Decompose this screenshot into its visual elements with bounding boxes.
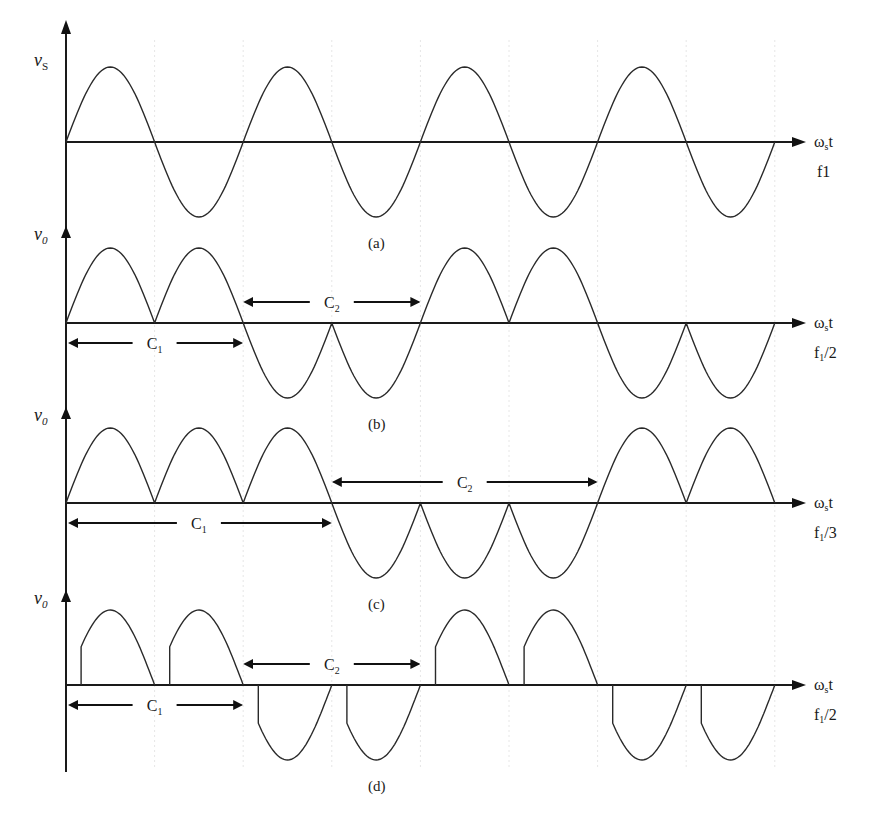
y-axis-label: vS [34, 50, 48, 72]
frequency-label: f1 [817, 163, 830, 180]
y-axis-arrow-icon [61, 20, 71, 34]
x-axis-arrow-icon [792, 680, 806, 690]
panel-caption: (b) [368, 416, 386, 433]
waveform-figure: vSωstf1(a)v0ωstf1/2(b)C1C2v0ωstf1/3(c)C1… [0, 0, 872, 819]
panel-caption: (d) [368, 778, 386, 795]
panel-caption: (c) [368, 596, 385, 613]
vertical-guide-lines [155, 40, 775, 770]
y-axis-arrow-icon [61, 407, 71, 419]
c2-label: C2 [324, 656, 340, 676]
frequency-label: f1/2 [814, 344, 837, 363]
x-axis-arrow-icon [792, 137, 806, 147]
y-axis-arrow-icon [61, 226, 71, 238]
y-axis-arrow-icon [61, 590, 71, 602]
y-axis-label: v0 [34, 588, 48, 610]
x-axis-label: ωst [814, 676, 833, 695]
x-axis-arrow-icon [792, 498, 806, 508]
x-axis-arrow-icon [792, 318, 806, 328]
panel-caption: (a) [368, 235, 385, 252]
c1-label: C1 [191, 515, 207, 535]
y-axis-label: v0 [34, 224, 48, 246]
c1-label: C1 [147, 697, 163, 717]
panel-a: vSωstf1(a) [34, 50, 833, 252]
x-axis-label: ωst [814, 133, 833, 152]
frequency-label: f1/3 [814, 524, 837, 543]
c2-label: C2 [457, 474, 473, 494]
frequency-label: f1/2 [814, 706, 837, 725]
x-axis-label: ωst [814, 314, 833, 333]
y-axis-label: v0 [34, 405, 48, 427]
x-axis-label: ωst [814, 494, 833, 513]
